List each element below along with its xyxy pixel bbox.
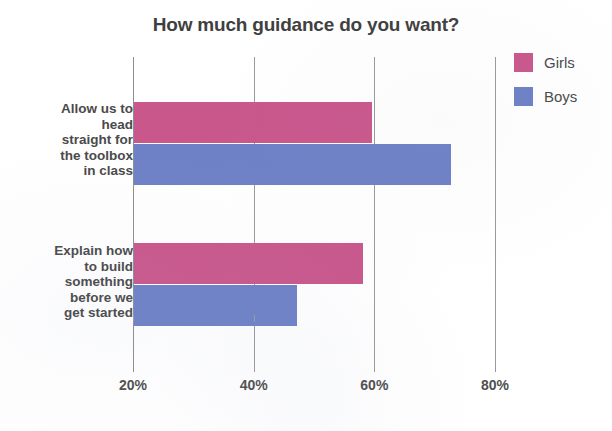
gridline-80% xyxy=(495,57,496,372)
tick-mark-20% xyxy=(133,315,134,322)
x-tick-label-1: 40% xyxy=(240,377,268,393)
category-label-0-line-1: head xyxy=(7,117,133,133)
tick-mark-60% xyxy=(374,315,375,322)
x-tick-label-2: 60% xyxy=(360,377,388,393)
category-label-0-line-0: Allow us to xyxy=(7,101,133,117)
bar-chart: How much guidance do you want? Girls Boy… xyxy=(0,0,612,431)
category-label-1-line-3: before we xyxy=(7,290,133,306)
bar-girls-group-0[interactable] xyxy=(134,102,372,143)
x-tick-label-0: 20% xyxy=(119,377,147,393)
legend-label-girls: Girls xyxy=(544,54,575,71)
category-label-0-line-4: in class xyxy=(7,163,133,179)
category-label-1: Explain how to build something before we… xyxy=(7,243,133,321)
tick-mark-40% xyxy=(254,315,255,322)
bar-boys-group-1[interactable] xyxy=(134,285,297,326)
x-tick-label-3: 80% xyxy=(481,377,509,393)
bar-girls-group-1[interactable] xyxy=(134,243,363,284)
chart-legend: Girls Boys xyxy=(514,47,610,115)
category-label-1-line-1: to build xyxy=(7,259,133,275)
boys-color-swatch xyxy=(514,87,533,106)
chart-title: How much guidance do you want? xyxy=(0,14,612,36)
category-label-1-line-4: get started xyxy=(7,305,133,321)
gridline-60% xyxy=(374,57,375,372)
girls-color-swatch xyxy=(514,53,533,72)
category-label-0: Allow us to head straight for the toolbo… xyxy=(7,101,133,179)
category-label-0-line-3: the toolbox xyxy=(7,148,133,164)
plot-area xyxy=(133,57,495,372)
legend-label-boys: Boys xyxy=(544,88,577,105)
legend-item-boys[interactable]: Boys xyxy=(514,81,610,111)
category-label-0-line-2: straight for xyxy=(7,132,133,148)
category-label-1-line-0: Explain how xyxy=(7,243,133,259)
tick-mark-80% xyxy=(495,315,496,322)
legend-item-girls[interactable]: Girls xyxy=(514,47,610,77)
category-label-1-line-2: something xyxy=(7,274,133,290)
bar-boys-group-0[interactable] xyxy=(134,144,451,185)
